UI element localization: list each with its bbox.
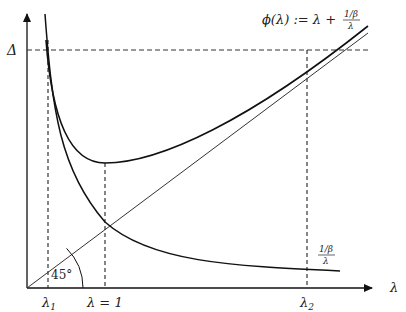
inverse-frac-den: λ [322, 256, 329, 266]
x-axis-label: λ [389, 280, 398, 295]
tick-lambda-one: λ = 1 [86, 295, 123, 310]
diagonal-line [27, 33, 368, 288]
phi-curve [46, 26, 368, 163]
phi-frac-num: 1/β [344, 9, 358, 19]
inverse-curve [45, 14, 340, 271]
delta-label: Δ [6, 42, 17, 58]
angle-label: 45° [51, 268, 72, 282]
phi-label: ϕ(λ) := λ + [262, 12, 336, 27]
diagram-canvas: Δ 45° λ λ1 λ = 1 λ2 ϕ(λ) := λ + 1/β λ 1/… [0, 0, 406, 312]
tick-lambda2: λ2 [299, 295, 314, 312]
phi-frac-den: λ [347, 21, 354, 31]
tick-lambda1: λ1 [41, 295, 56, 312]
inverse-frac-num: 1/β [319, 244, 333, 254]
